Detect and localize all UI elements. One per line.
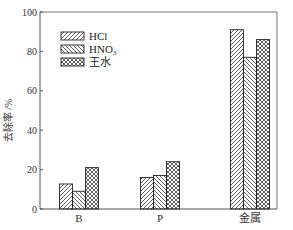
bar-HCl-B: [60, 184, 73, 209]
bar-HCl-P: [141, 177, 154, 209]
legend-swatch-HCl: [61, 32, 84, 40]
legend-swatch-HNO3: [61, 45, 84, 53]
y-tick-label: 60: [27, 85, 37, 96]
bar-chart: 020406080100去除率 /%BP金属HClHNO₃王水: [0, 0, 293, 230]
x-category-label: P: [157, 212, 163, 224]
y-tick-label: 80: [27, 46, 37, 57]
y-tick-label: 100: [22, 7, 37, 18]
legend-label-王水: 王水: [89, 56, 111, 68]
bar-王水-P: [167, 162, 180, 209]
bar-HCl-金属: [231, 30, 244, 209]
bar-HNO3-B: [73, 191, 86, 209]
bar-王水-B: [86, 168, 99, 209]
x-category-label: 金属: [239, 211, 261, 224]
bar-王水-金属: [257, 40, 270, 209]
y-tick-label: 20: [27, 164, 37, 175]
x-category-label: B: [75, 212, 82, 224]
y-tick-label: 0: [32, 204, 37, 215]
legend-label-HNO3: HNO₃: [89, 43, 117, 55]
bar-HNO3-金属: [244, 57, 257, 209]
legend-label-HCl: HCl: [89, 30, 107, 42]
plot-area: 020406080100去除率 /%BP金属HClHNO₃王水: [2, 7, 277, 225]
y-axis-title: 去除率 /%: [2, 99, 14, 143]
legend-swatch-王水: [61, 58, 84, 66]
y-tick-label: 40: [27, 125, 37, 136]
bar-HNO3-P: [154, 176, 167, 209]
